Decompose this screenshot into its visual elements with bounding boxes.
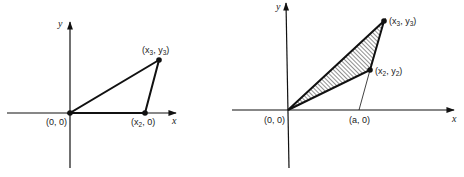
right-y-axis	[286, 3, 289, 168]
right-a-label: (a, 0)	[349, 115, 370, 125]
right-diagram: y x (0, 0) (a, 0) (x3, y3) (x2, y2)	[232, 1, 457, 168]
right-origin-label: (0, 0)	[264, 115, 285, 125]
right-y-axis-label: y	[275, 1, 281, 12]
right-x-axis-label: x	[451, 113, 457, 124]
left-origin-label: (0, 0)	[46, 117, 67, 127]
left-p3-label: (x3, y3)	[142, 45, 169, 56]
left-p3-point	[156, 57, 162, 63]
left-diagram: y x (0, 0) (x2, 0) (x3, y3)	[7, 18, 177, 168]
right-p2-label: (x2, y2)	[375, 66, 402, 77]
figure-canvas: y x (0, 0) (x2, 0) (x3, y3) y x (0, 0) (…	[0, 0, 464, 177]
right-hatched-triangle	[288, 21, 384, 110]
left-p2-label: (x2, 0)	[131, 117, 155, 128]
right-dashed-line	[359, 70, 370, 110]
right-p2-point	[367, 67, 373, 73]
left-p2-point	[142, 110, 148, 116]
left-origin-point	[67, 110, 73, 116]
right-p3-point	[381, 18, 387, 24]
left-x-axis-label: x	[171, 115, 177, 126]
left-triangle	[70, 60, 159, 113]
right-p3-label: (x3, y3)	[389, 16, 416, 27]
left-y-axis-label: y	[57, 18, 63, 29]
